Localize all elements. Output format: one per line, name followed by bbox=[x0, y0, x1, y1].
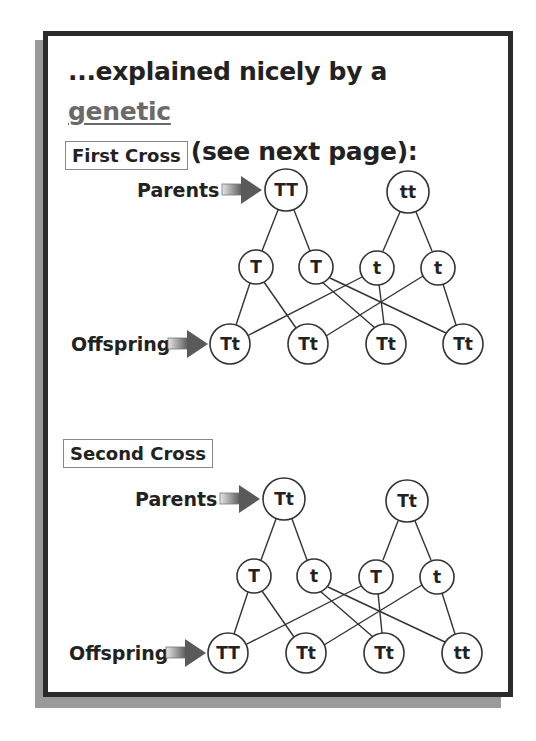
second-cross-parents-arrow bbox=[220, 485, 260, 513]
svg-text:Tt: Tt bbox=[453, 334, 473, 354]
svg-text:t: t bbox=[434, 258, 442, 278]
svg-text:T: T bbox=[250, 257, 262, 277]
svg-text:Tt: Tt bbox=[298, 334, 318, 354]
first-cross-offspring-arrow bbox=[168, 330, 208, 358]
svg-text:Tt: Tt bbox=[274, 489, 294, 509]
svg-text:T: T bbox=[248, 566, 260, 586]
svg-text:t: t bbox=[373, 258, 381, 278]
svg-text:T: T bbox=[370, 567, 382, 587]
svg-text:t: t bbox=[310, 566, 318, 586]
svg-text:Tt: Tt bbox=[376, 334, 396, 354]
svg-text:TT: TT bbox=[216, 643, 240, 663]
svg-text:T: T bbox=[310, 257, 322, 277]
svg-text:Tt: Tt bbox=[220, 334, 240, 354]
first-cross-parents-arrow bbox=[222, 176, 262, 204]
svg-text:Tt: Tt bbox=[397, 491, 417, 511]
svg-text:tt: tt bbox=[454, 643, 470, 663]
second-cross-node-labels: Tt Tt T t T t TT Tt Tt tt bbox=[216, 489, 470, 663]
svg-text:Tt: Tt bbox=[296, 643, 316, 663]
second-cross-offspring-arrow bbox=[166, 639, 206, 667]
genetic-diagram: TT tt T T t t Tt Tt Tt Tt bbox=[0, 0, 536, 741]
svg-text:t: t bbox=[433, 567, 441, 587]
svg-text:Tt: Tt bbox=[374, 643, 394, 663]
svg-text:tt: tt bbox=[400, 182, 416, 202]
svg-text:TT: TT bbox=[274, 180, 298, 200]
